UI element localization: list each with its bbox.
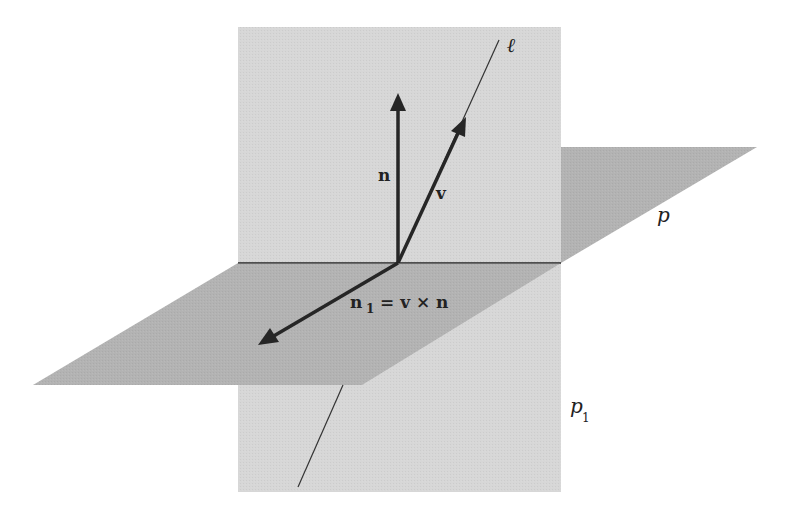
diagram-canvas: ℓ n v p n 1 = v × n p 1	[0, 0, 790, 521]
label-plane-p1: p 1	[570, 394, 590, 425]
svg-text:1: 1	[582, 411, 590, 425]
label-line-l: ℓ	[507, 33, 516, 57]
svg-text:1: 1	[366, 302, 374, 316]
label-v: v	[435, 183, 447, 203]
label-plane-p: p	[657, 203, 670, 227]
svg-text:= v × n: = v × n	[380, 292, 448, 312]
svg-text:n: n	[350, 292, 362, 312]
label-n: n	[378, 165, 390, 185]
